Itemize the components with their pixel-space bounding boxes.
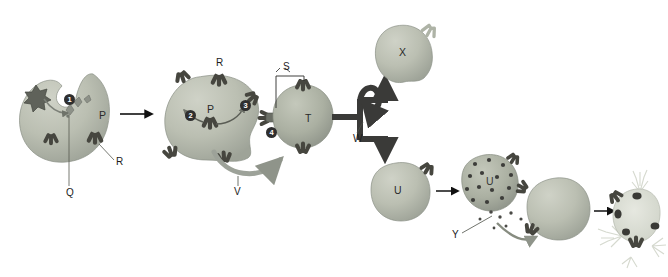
leader-line-Y bbox=[462, 216, 492, 233]
label-X: X bbox=[399, 47, 406, 58]
stage-activated-lymphocyte-T bbox=[273, 68, 333, 152]
immunology-pathway-svg bbox=[0, 0, 668, 277]
cell-body-P-left bbox=[20, 74, 110, 162]
step-badge-3: 3 bbox=[240, 100, 251, 111]
label-P-left: P bbox=[99, 110, 106, 121]
label-R-top: R bbox=[216, 58, 223, 68]
step-badge-1: 1 bbox=[64, 94, 75, 105]
label-U: U bbox=[394, 185, 402, 196]
label-Y: Y bbox=[452, 230, 459, 240]
label-P-mid: P bbox=[207, 104, 214, 115]
label-Q: Q bbox=[66, 188, 74, 198]
stage-effector-cell-U bbox=[371, 163, 434, 221]
leader-line-R-left bbox=[99, 144, 114, 160]
stage-memory-cell-X bbox=[375, 24, 437, 83]
label-U-granular: U bbox=[486, 176, 494, 187]
label-V: V bbox=[234, 187, 241, 197]
branch-arrow-down bbox=[360, 139, 385, 156]
stage-plasma-cell bbox=[598, 170, 666, 268]
label-R-left: R bbox=[116, 157, 123, 167]
stage-proliferation-branch-W bbox=[332, 82, 385, 156]
stage-antigen-presenting-cell bbox=[20, 74, 114, 186]
label-T: T bbox=[305, 113, 311, 124]
stage-granule-bearing-cell-U bbox=[462, 153, 536, 239]
step-badge-4: 4 bbox=[266, 127, 277, 138]
stage-presenting-cell-processing bbox=[164, 71, 277, 161]
label-W: W bbox=[353, 134, 363, 144]
cell-body-T bbox=[273, 85, 333, 148]
diagram-canvas: P Q R R P S T V W X U U Y 1 2 3 4 bbox=[0, 0, 668, 277]
step-badge-2: 2 bbox=[185, 110, 196, 121]
stage-target-cell bbox=[525, 178, 590, 240]
label-S: S bbox=[283, 62, 290, 72]
